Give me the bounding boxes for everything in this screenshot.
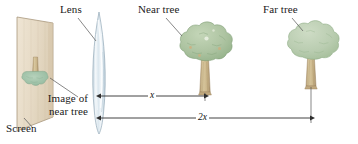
label-screen: Screen [6, 122, 37, 134]
label-lens: Lens [60, 3, 82, 15]
leader-near-tree [166, 18, 182, 36]
converging-lens [93, 12, 105, 134]
optics-lens-diagram: Lens Near tree Far tree Image of near tr… [0, 0, 358, 144]
far-tree-figure [287, 21, 339, 89]
label-near-tree: Near tree [138, 3, 180, 15]
near-tree-canopy [180, 22, 232, 61]
label-image-of-near-tree: Image of near tree [30, 92, 88, 117]
dimension-label-2x: 2x [196, 112, 209, 122]
diagram-canvas [0, 0, 358, 144]
near-tree-figure [180, 22, 232, 95]
dimension-label-x: x [148, 90, 156, 100]
label-far-tree: Far tree [263, 3, 298, 15]
near-tree-trunk [200, 60, 210, 92]
image-tree-trunk [33, 57, 39, 72]
far-tree-canopy [287, 21, 339, 60]
far-tree-trunk [306, 58, 316, 86]
leader-lens [78, 18, 96, 41]
